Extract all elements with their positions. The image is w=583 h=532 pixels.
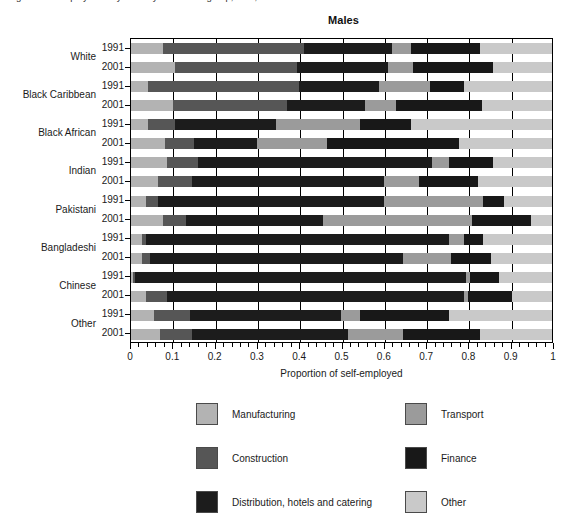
bar-segment[interactable]: [276, 119, 360, 130]
bar-segment[interactable]: [432, 157, 449, 168]
bar-segment[interactable]: [480, 329, 552, 340]
bar-segment[interactable]: [493, 157, 552, 168]
bar-segment[interactable]: [384, 176, 420, 187]
bar-segment[interactable]: [472, 215, 531, 226]
bar-segment[interactable]: [154, 310, 190, 321]
bar-segment[interactable]: [131, 81, 148, 92]
bar-row[interactable]: [131, 176, 552, 187]
bar-row[interactable]: [131, 196, 552, 207]
bar-segment[interactable]: [499, 272, 552, 283]
bar-segment[interactable]: [430, 81, 464, 92]
bar-segment[interactable]: [175, 119, 276, 130]
bar-segment[interactable]: [341, 310, 360, 321]
bar-segment[interactable]: [131, 176, 158, 187]
bar-segment[interactable]: [491, 253, 552, 264]
bar-segment[interactable]: [348, 329, 403, 340]
bar-segment[interactable]: [411, 119, 552, 130]
bar-segment[interactable]: [131, 215, 163, 226]
bar-segment[interactable]: [131, 329, 160, 340]
bar-segment[interactable]: [190, 310, 342, 321]
bar-segment[interactable]: [131, 62, 175, 73]
bar-segment[interactable]: [131, 138, 165, 149]
bar-segment[interactable]: [323, 215, 472, 226]
bar-segment[interactable]: [483, 234, 552, 245]
bar-segment[interactable]: [131, 310, 154, 321]
bar-segment[interactable]: [160, 329, 192, 340]
bar-segment[interactable]: [403, 253, 451, 264]
bar-segment[interactable]: [449, 157, 493, 168]
bar-segment[interactable]: [478, 176, 552, 187]
bar-segment[interactable]: [287, 100, 365, 111]
legend-item[interactable]: Finance: [405, 447, 477, 469]
bar-segment[interactable]: [131, 157, 167, 168]
bar-segment[interactable]: [167, 157, 199, 168]
bar-row[interactable]: [131, 62, 552, 73]
bar-segment[interactable]: [413, 62, 493, 73]
bar-segment[interactable]: [493, 62, 552, 73]
legend-item[interactable]: Transport: [405, 403, 483, 425]
bar-row[interactable]: [131, 215, 552, 226]
bar-segment[interactable]: [198, 157, 432, 168]
bar-segment[interactable]: [379, 81, 430, 92]
bar-row[interactable]: [131, 234, 552, 245]
bar-segment[interactable]: [459, 138, 552, 149]
bar-segment[interactable]: [163, 215, 186, 226]
bar-segment[interactable]: [163, 43, 304, 54]
bar-segment[interactable]: [173, 100, 287, 111]
bar-segment[interactable]: [483, 196, 504, 207]
bar-row[interactable]: [131, 272, 552, 283]
legend-item[interactable]: Construction: [196, 447, 288, 469]
bar-segment[interactable]: [504, 196, 552, 207]
bar-segment[interactable]: [449, 310, 552, 321]
bar-segment[interactable]: [148, 81, 300, 92]
bar-segment[interactable]: [531, 215, 552, 226]
bar-segment[interactable]: [186, 215, 323, 226]
bar-segment[interactable]: [165, 138, 194, 149]
legend-item[interactable]: Manufacturing: [196, 403, 295, 425]
bar-segment[interactable]: [158, 176, 192, 187]
bar-segment[interactable]: [131, 43, 163, 54]
bar-segment[interactable]: [482, 100, 551, 111]
bar-segment[interactable]: [480, 43, 552, 54]
bar-segment[interactable]: [384, 196, 483, 207]
bar-segment[interactable]: [146, 291, 167, 302]
bar-segment[interactable]: [403, 329, 481, 340]
bar-row[interactable]: [131, 157, 552, 168]
bar-segment[interactable]: [131, 253, 142, 264]
bar-row[interactable]: [131, 119, 552, 130]
bar-segment[interactable]: [299, 81, 379, 92]
bar-segment[interactable]: [411, 43, 480, 54]
bar-segment[interactable]: [327, 138, 460, 149]
bar-row[interactable]: [131, 81, 552, 92]
bar-segment[interactable]: [449, 234, 464, 245]
bar-segment[interactable]: [257, 138, 326, 149]
bar-segment[interactable]: [131, 234, 142, 245]
legend-item[interactable]: Other: [405, 491, 466, 513]
bar-segment[interactable]: [131, 119, 148, 130]
bar-segment[interactable]: [131, 196, 146, 207]
bar-segment[interactable]: [297, 62, 388, 73]
bar-row[interactable]: [131, 253, 552, 264]
bar-segment[interactable]: [135, 272, 465, 283]
bar-segment[interactable]: [365, 100, 397, 111]
bar-segment[interactable]: [167, 291, 464, 302]
bar-segment[interactable]: [360, 119, 411, 130]
bar-segment[interactable]: [146, 196, 159, 207]
bar-segment[interactable]: [146, 234, 449, 245]
bar-segment[interactable]: [464, 81, 552, 92]
bar-segment[interactable]: [131, 100, 173, 111]
bar-segment[interactable]: [470, 272, 499, 283]
bar-segment[interactable]: [131, 291, 146, 302]
bar-segment[interactable]: [512, 291, 552, 302]
bar-row[interactable]: [131, 310, 552, 321]
bar-segment[interactable]: [451, 253, 491, 264]
bar-segment[interactable]: [464, 234, 483, 245]
bar-row[interactable]: [131, 291, 552, 302]
bar-segment[interactable]: [175, 62, 297, 73]
bar-segment[interactable]: [192, 329, 348, 340]
bar-segment[interactable]: [468, 291, 512, 302]
bar-segment[interactable]: [194, 138, 257, 149]
legend-item[interactable]: Distribution, hotels and catering: [196, 491, 372, 513]
bar-row[interactable]: [131, 100, 552, 111]
bar-segment[interactable]: [192, 176, 384, 187]
